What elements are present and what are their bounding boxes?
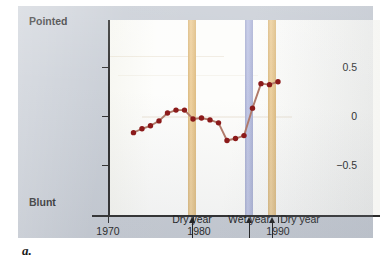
annotation-label-dry-year-1: Dry year — [172, 213, 212, 225]
y-tick-label-0-5: 0.5 — [279, 61, 373, 73]
annotation-arrow-head-dry-year-2 — [269, 217, 275, 223]
band-shading — [188, 20, 196, 216]
annotation-label-wet-year: Wet year — [228, 213, 270, 225]
annotation-label-dry-year-2: Dry year — [280, 213, 320, 225]
event-band-dry-year-1 — [188, 20, 196, 216]
y-tick-mark — [102, 116, 109, 117]
figure-caption: a. — [22, 243, 32, 259]
y-tick-label-neg-0-5: −0.5 — [279, 159, 373, 171]
y-tick-mark — [102, 67, 109, 68]
x-tick-label-1970: 1970 — [96, 225, 119, 237]
y-axis-top-label-pointed: Pointed — [29, 15, 68, 27]
y-axis-bottom-label-blunt: Blunt — [29, 196, 56, 208]
x-tick-mark — [108, 217, 109, 223]
scan-streak — [108, 56, 224, 57]
figure-panel: 0.5 0 −0.5 Pointed Blunt 1970 1980 1990 … — [18, 6, 373, 238]
annotation-arrow-stem-dry-year-2 — [272, 222, 273, 238]
band-shading — [268, 20, 276, 216]
y-tick-mark — [102, 165, 109, 166]
y-tick-label-0: 0 — [279, 110, 373, 122]
event-band-wet-year — [245, 20, 253, 216]
event-band-dry-year-2 — [268, 20, 276, 216]
x-tick-label-1990: 1990 — [266, 225, 289, 237]
x-tick-mark — [278, 217, 279, 223]
y-axis-line — [108, 20, 110, 216]
band-shading — [245, 20, 253, 216]
